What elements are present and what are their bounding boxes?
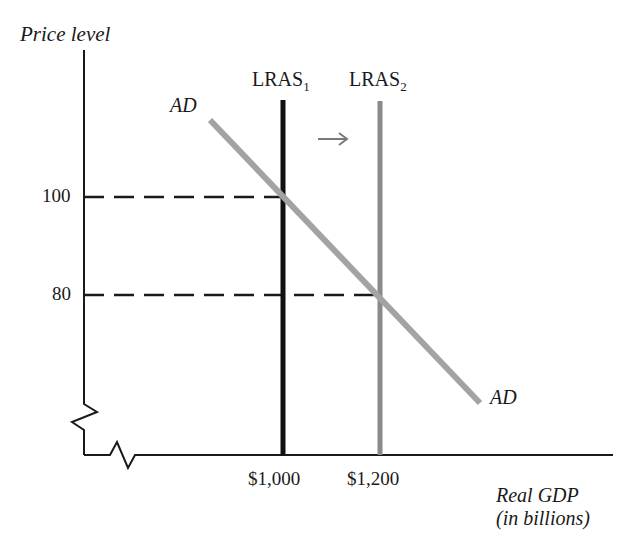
y-tick-80: 80 <box>52 283 71 305</box>
ad-line <box>210 120 480 403</box>
chart-figure: Price level 100 80 $1,000 $1,200 Real GD… <box>0 0 643 550</box>
lras2-label-main: LRAS <box>349 68 400 90</box>
ad-label-bottom: AD <box>490 386 517 409</box>
lras1-label-sub: 1 <box>303 79 310 94</box>
lras2-label: LRAS2 <box>349 68 407 91</box>
y-axis-label: Price level <box>20 22 110 47</box>
x-axis <box>84 442 613 468</box>
x-tick-1000: $1,000 <box>248 468 300 490</box>
x-axis-label-line2: (in billions) <box>496 507 590 530</box>
lras1-label-main: LRAS <box>252 68 303 90</box>
lras1-label: LRAS1 <box>252 68 310 91</box>
x-axis-label-line1: Real GDP <box>496 484 579 507</box>
ad-label-top: AD <box>170 94 197 117</box>
lras2-label-sub: 2 <box>400 79 407 94</box>
y-axis <box>72 50 97 455</box>
shift-arrow-icon <box>318 133 347 145</box>
chart-canvas <box>0 0 643 550</box>
x-tick-1200: $1,200 <box>347 468 399 490</box>
y-tick-100: 100 <box>42 185 71 207</box>
